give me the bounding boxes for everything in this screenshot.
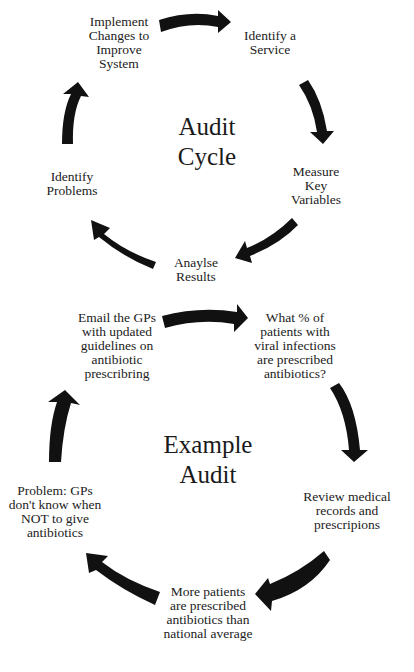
arrow-up-icon <box>48 390 80 462</box>
step-problem-gps: Problem: GPs don't know when NOT to give… <box>6 484 104 540</box>
step-implement-changes: Implement Changes to Improve System <box>72 15 166 71</box>
audit-cycle-title: Audit Cycle <box>152 112 262 172</box>
step-review-records: Review medical records and prescripions <box>300 490 394 532</box>
step-identify-problems: Identify Problems <box>36 170 108 198</box>
arrow-up-left-icon <box>91 220 156 269</box>
arrow-down-left-icon <box>235 218 298 263</box>
arrow-down-icon <box>330 383 368 462</box>
step-measure-key-variables: Measure Key Variables <box>280 165 352 207</box>
step-more-patients: More patients are prescribed antibiotics… <box>158 585 258 641</box>
arrow-up-icon <box>62 82 89 144</box>
arrow-right-icon <box>159 10 231 33</box>
step-what-percent: What % of patients with viral infections… <box>250 311 340 381</box>
arrow-down-left-icon <box>255 551 330 611</box>
step-identify-service: Identify a Service <box>225 29 315 57</box>
example-audit-title: Example Audit <box>148 430 268 490</box>
step-analyse-results: Anaylse Results <box>160 256 232 284</box>
audit-diagram: Audit Cycle Implement Changes to Improve… <box>0 0 414 672</box>
arrow-up-left-icon <box>86 553 160 605</box>
arrow-down-icon <box>299 80 334 144</box>
step-email-gps: Email the GPs with updated guidelines on… <box>70 311 164 381</box>
cycle-arrows <box>0 0 414 672</box>
arrow-right-icon <box>162 304 248 332</box>
